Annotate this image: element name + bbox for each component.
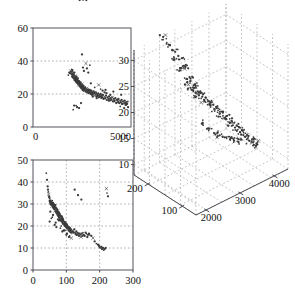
data-point	[171, 58, 173, 60]
data-point	[54, 224, 56, 226]
data-point	[212, 104, 214, 106]
data-point	[85, 0, 87, 1]
data-point	[49, 211, 51, 213]
data-point	[208, 101, 210, 103]
data-point	[60, 225, 62, 227]
data-point	[106, 192, 108, 194]
data-point	[75, 234, 77, 236]
ztick-label: 10	[119, 159, 130, 170]
data-point	[77, 77, 79, 79]
wall-gridline-horizontal	[134, 14, 226, 60]
data-point	[242, 130, 244, 132]
data-point	[246, 143, 248, 145]
data-point	[231, 121, 233, 123]
data-point	[253, 140, 255, 142]
data-point	[229, 122, 231, 124]
data-point	[61, 230, 63, 232]
data-point	[55, 226, 57, 228]
data-point	[161, 39, 163, 41]
ztick-label: 25	[119, 81, 130, 92]
data-point-x	[199, 101, 202, 104]
data-point	[103, 91, 105, 93]
data-point	[100, 96, 102, 98]
data-point	[201, 96, 203, 98]
data-point	[252, 145, 254, 147]
xtick-label: 300	[125, 275, 141, 286]
data-point	[217, 111, 219, 113]
data-point	[171, 50, 173, 52]
data-point	[176, 58, 178, 60]
data-point	[125, 104, 127, 106]
data-point	[83, 70, 85, 72]
data-point	[86, 236, 88, 238]
panel-right-3d-points	[159, 33, 260, 148]
panel-top-left-frame	[33, 28, 131, 127]
data-point	[54, 204, 56, 206]
data-point	[107, 195, 109, 197]
data-point	[226, 137, 228, 139]
data-point	[222, 112, 224, 114]
data-point	[246, 139, 248, 141]
data-point	[242, 134, 244, 136]
data-point	[210, 106, 212, 108]
data-point-x	[91, 237, 94, 240]
data-point	[86, 67, 88, 69]
data-point	[84, 235, 86, 237]
data-point	[97, 92, 99, 94]
data-point	[238, 143, 240, 145]
data-point	[185, 84, 187, 86]
data-point	[232, 124, 234, 126]
data-point	[184, 58, 186, 60]
data-point	[82, 66, 84, 68]
data-point	[178, 69, 180, 71]
data-point	[237, 140, 239, 142]
data-point	[46, 179, 48, 181]
data-point	[219, 109, 221, 111]
data-point	[191, 76, 193, 78]
data-point	[207, 104, 209, 106]
data-point	[211, 128, 213, 130]
data-point	[195, 87, 197, 89]
wall-gridline-horizontal	[134, 139, 196, 179]
data-point	[200, 98, 202, 100]
xtick-label: 0	[30, 275, 35, 286]
data-point	[192, 86, 194, 88]
panel-right-3d-axes	[134, 50, 288, 215]
wall-gridline-horizontal	[134, 40, 226, 86]
data-point	[212, 101, 214, 103]
data-point	[203, 99, 205, 101]
xtick-label: 200	[92, 275, 108, 286]
data-point	[55, 222, 57, 224]
data-point	[250, 142, 252, 144]
data-point	[184, 77, 186, 79]
data-point	[89, 64, 91, 66]
data-point	[257, 141, 259, 143]
data-point	[95, 243, 97, 245]
data-point	[217, 105, 219, 107]
data-point	[232, 129, 234, 131]
data-point	[245, 132, 247, 134]
data-point	[47, 185, 49, 187]
data-point	[234, 126, 236, 128]
data-point	[202, 124, 204, 126]
data-point-x	[70, 237, 73, 240]
data-point	[219, 113, 221, 115]
data-point	[238, 123, 240, 125]
data-point	[167, 46, 169, 48]
data-point	[165, 38, 167, 40]
data-point	[237, 133, 239, 135]
data-point	[214, 134, 216, 136]
data-point	[72, 109, 74, 111]
wall-gridline-horizontal	[134, 86, 196, 126]
data-point	[240, 134, 242, 136]
ytick-label: 20	[18, 89, 29, 100]
data-point	[105, 247, 107, 249]
data-point	[100, 88, 102, 90]
data-point	[174, 51, 176, 53]
data-point	[82, 232, 84, 234]
panel-top-left-xtick-labels: 05000	[33, 131, 131, 142]
data-point	[94, 240, 96, 242]
data-point	[252, 138, 254, 140]
data-point	[203, 101, 205, 103]
data-point	[80, 102, 82, 104]
